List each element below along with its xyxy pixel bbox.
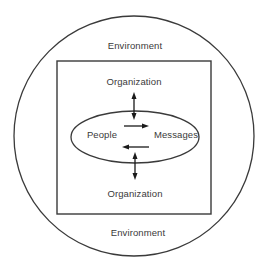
organization-bottom-label: Organization: [107, 188, 162, 199]
messages-to-people-arrow: [122, 145, 149, 150]
environment-bottom-label: Environment: [111, 227, 165, 238]
environment-top-label: Environment: [108, 40, 162, 51]
top-bidirectional-arrow: [132, 92, 137, 120]
communication-context-diagram: Environment Organization People Messages…: [0, 0, 266, 268]
organization-top-label: Organization: [106, 76, 161, 87]
messages-label: Messages: [154, 129, 198, 140]
people-label: People: [87, 129, 117, 140]
people-to-messages-arrow: [124, 124, 149, 129]
environment-circle: [14, 16, 254, 256]
bottom-bidirectional-arrow: [133, 152, 138, 180]
